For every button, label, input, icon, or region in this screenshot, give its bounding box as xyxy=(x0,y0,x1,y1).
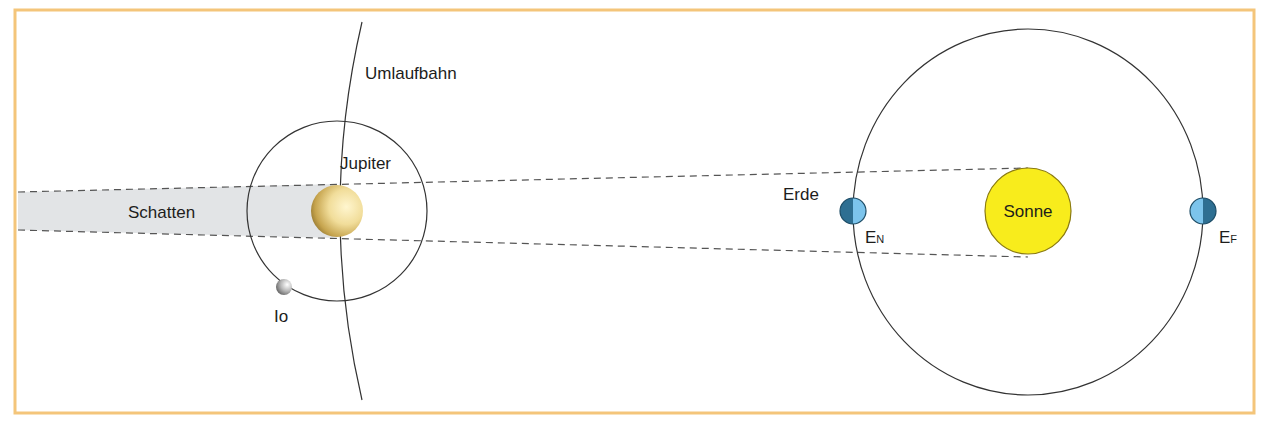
earth-label: Erde xyxy=(783,185,819,204)
sun-label: Sonne xyxy=(1003,202,1052,221)
earth-far xyxy=(1190,198,1216,224)
earth-near-label: EN xyxy=(865,228,884,247)
earth-near xyxy=(840,198,866,224)
jupiter-planet xyxy=(311,185,363,237)
io-moon xyxy=(276,279,292,295)
orbit-label: Umlaufbahn xyxy=(365,64,457,83)
io-label: Io xyxy=(274,307,288,326)
shadow-label: Schatten xyxy=(128,203,195,222)
jupiter-label: Jupiter xyxy=(340,154,391,173)
jupiter-io-eclipse-diagram: Umlaufbahn Jupiter Schatten Io Erde Sonn… xyxy=(0,0,1269,425)
earth-far-label: EF xyxy=(1219,228,1237,247)
